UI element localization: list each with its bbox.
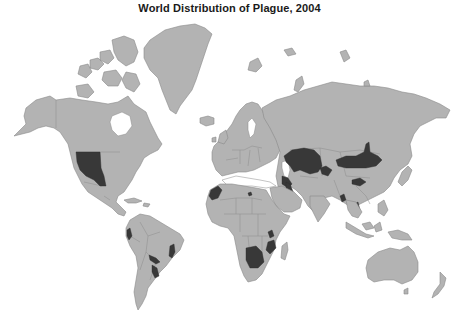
- new-zealand: [432, 272, 446, 298]
- australia: [366, 246, 418, 284]
- arctic-islands: [76, 36, 140, 98]
- india: [310, 196, 330, 222]
- tasmania: [404, 288, 408, 294]
- iceland: [200, 116, 214, 126]
- world-map: [0, 0, 459, 316]
- greenland: [144, 24, 212, 114]
- plague-libya: [248, 192, 252, 196]
- madagascar: [281, 242, 288, 260]
- british-isles: [212, 130, 228, 144]
- caribbean: [124, 198, 150, 207]
